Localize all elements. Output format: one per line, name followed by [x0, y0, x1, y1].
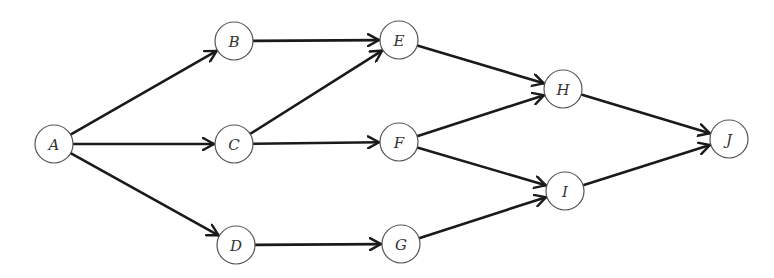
- arrow-icon: [417, 147, 546, 185]
- edge-f-to-h: [417, 95, 544, 136]
- arrow-icon: [250, 51, 382, 134]
- node-label: I: [561, 183, 569, 201]
- node-label: D: [229, 237, 242, 255]
- arrow-icon: [583, 145, 710, 185]
- edge-g-to-i: [419, 197, 546, 238]
- arrow-icon: [581, 95, 710, 134]
- network-diagram: ABCDEFGHIJ: [0, 0, 774, 278]
- node-d: D: [217, 226, 255, 264]
- arrow-icon: [71, 51, 217, 135]
- node-g: G: [382, 225, 420, 263]
- node-c: C: [215, 125, 253, 163]
- edge-i-to-j: [583, 145, 710, 185]
- arrow-icon: [417, 45, 544, 83]
- arrow-icon: [253, 40, 379, 41]
- arrow-icon: [71, 153, 219, 235]
- node-label: A: [47, 136, 60, 154]
- nodes-layer: ABCDEFGHIJ: [35, 21, 748, 264]
- node-label: H: [555, 81, 570, 99]
- node-label: E: [393, 32, 405, 50]
- edge-d-to-g: [255, 244, 381, 245]
- arrow-icon: [253, 142, 379, 144]
- node-b: B: [215, 22, 253, 60]
- edge-f-to-i: [417, 147, 546, 185]
- edge-b-to-e: [253, 40, 379, 41]
- node-e: E: [380, 21, 418, 59]
- arrow-icon: [417, 95, 544, 136]
- node-label: F: [393, 134, 405, 152]
- edge-c-to-f: [253, 142, 379, 144]
- node-j: J: [710, 120, 748, 158]
- node-f: F: [380, 123, 418, 161]
- edge-a-to-b: [71, 51, 217, 135]
- node-label: G: [395, 236, 407, 254]
- edge-h-to-j: [581, 95, 710, 134]
- node-label: B: [227, 33, 239, 51]
- node-h: H: [544, 70, 582, 108]
- node-a: A: [35, 125, 73, 163]
- arrow-icon: [255, 244, 381, 245]
- arrow-icon: [419, 197, 546, 238]
- node-i: I: [546, 172, 584, 210]
- node-label: C: [228, 136, 240, 154]
- edge-a-to-d: [71, 153, 219, 235]
- edge-c-to-e: [250, 51, 382, 134]
- edge-e-to-h: [417, 45, 544, 83]
